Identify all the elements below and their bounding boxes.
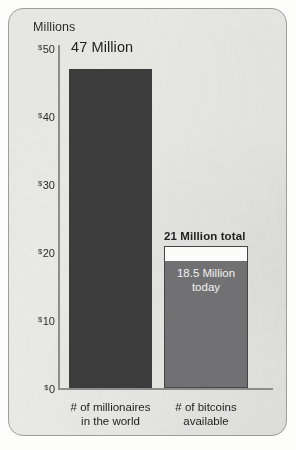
y-tick-currency-50: $ bbox=[38, 43, 42, 52]
x-axis-line bbox=[58, 388, 273, 390]
category-label-millionaires-line1: # of millionaires bbox=[54, 400, 167, 414]
bar-label-bitcoin-today-line2: today bbox=[165, 281, 247, 295]
y-tick-value-0: 0 bbox=[49, 383, 55, 395]
bar-millionaires bbox=[69, 69, 152, 388]
bar-label-bitcoin-today: 18.5 Million today bbox=[165, 267, 247, 294]
y-axis-tick-group: $50 $40 $30 $20 $10 $0 bbox=[9, 9, 55, 435]
category-label-bitcoin: # of bitcoins available bbox=[157, 400, 255, 428]
y-axis-tick-40: $40 bbox=[11, 111, 55, 124]
bar-bitcoin-filled-segment: 18.5 Million today bbox=[165, 261, 247, 387]
y-axis-tick-20: $20 bbox=[11, 247, 55, 260]
y-axis-tick-0: $0 bbox=[11, 383, 55, 396]
y-tick-value-50: 50 bbox=[43, 43, 55, 55]
y-tick-currency-20: $ bbox=[38, 247, 42, 256]
y-tick-value-40: 40 bbox=[43, 111, 55, 123]
y-tick-value-20: 20 bbox=[43, 247, 55, 259]
chart-plot-area: Millions $50 $40 $30 $20 $10 $0 47 Milli… bbox=[9, 9, 286, 435]
y-tick-currency-0: $ bbox=[44, 383, 48, 392]
y-axis-line bbox=[58, 45, 60, 389]
y-tick-currency-10: $ bbox=[38, 315, 42, 324]
bar-label-bitcoin-today-line1: 18.5 Million bbox=[165, 267, 247, 281]
y-axis-tick-10: $10 bbox=[11, 315, 55, 328]
y-tick-value-10: 10 bbox=[43, 315, 55, 327]
chart-card: Millions $50 $40 $30 $20 $10 $0 47 Milli… bbox=[8, 8, 287, 436]
category-label-millionaires: # of millionaires in the world bbox=[54, 400, 167, 428]
bar-label-millionaires: 47 Million bbox=[71, 39, 133, 55]
y-axis-tick-50: $50 bbox=[11, 43, 55, 56]
category-label-bitcoin-line1: # of bitcoins bbox=[157, 400, 255, 414]
y-tick-currency-30: $ bbox=[38, 179, 42, 188]
bar-bitcoin: 18.5 Million today bbox=[164, 246, 248, 388]
y-tick-currency-40: $ bbox=[38, 111, 42, 120]
category-label-millionaires-line2: in the world bbox=[54, 414, 167, 428]
y-axis-tick-30: $30 bbox=[11, 179, 55, 192]
category-label-bitcoin-line2: available bbox=[157, 414, 255, 428]
bar-label-bitcoin-total: 21 Million total bbox=[164, 230, 245, 242]
y-tick-value-30: 30 bbox=[43, 179, 55, 191]
